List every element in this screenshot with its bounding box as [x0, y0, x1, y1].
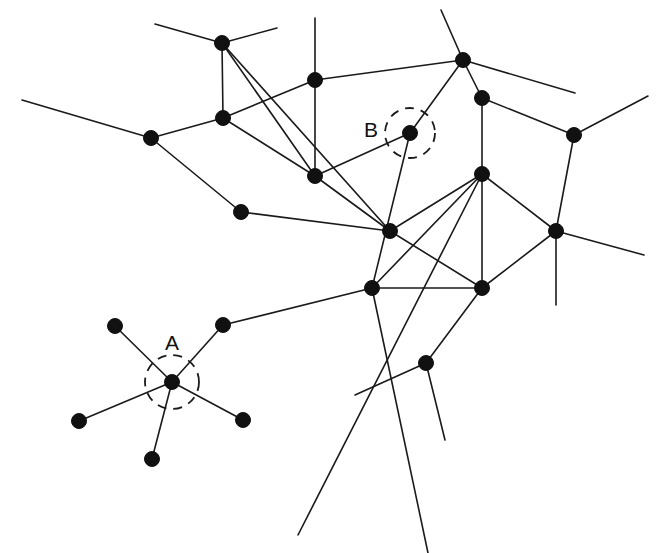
graph-node[interactable]	[216, 111, 231, 126]
graph-edge	[222, 43, 223, 118]
graph-edge	[482, 231, 556, 288]
graph-node[interactable]	[383, 224, 398, 239]
graph-node[interactable]	[72, 414, 87, 429]
graph-edge	[172, 382, 243, 420]
graph-node[interactable]	[108, 319, 123, 334]
graph-edge	[482, 98, 574, 135]
graph-edge	[390, 231, 482, 288]
graph-edge	[223, 80, 315, 118]
graph-edge	[222, 43, 315, 176]
graph-edge	[223, 288, 372, 325]
graph-node[interactable]	[403, 126, 418, 141]
graph-node[interactable]	[308, 169, 323, 184]
graph-open-edge	[463, 60, 575, 93]
graph-edge	[151, 118, 223, 138]
graph-edge	[372, 133, 410, 288]
graph-open-edge	[372, 288, 428, 553]
graph-node[interactable]	[365, 281, 380, 296]
graph-node[interactable]	[215, 36, 230, 51]
graph-node[interactable]	[567, 128, 582, 143]
graph-edge	[115, 326, 172, 382]
graph-open-edge	[355, 363, 426, 395]
region-label-b: B	[364, 118, 378, 141]
graph-edge	[315, 60, 463, 80]
graph-edge	[482, 174, 556, 231]
graph-node[interactable]	[234, 205, 249, 220]
graph-node[interactable]	[144, 131, 159, 146]
graph-edge	[410, 60, 463, 133]
region-labels-layer: AB	[165, 118, 378, 354]
graph-node[interactable]	[308, 73, 323, 88]
open-edges-layer	[22, 10, 648, 553]
graph-edge	[79, 382, 172, 421]
edges-layer	[79, 43, 574, 459]
graph-open-edge	[426, 363, 445, 440]
graph-open-edge	[574, 96, 648, 135]
graph-edge	[151, 138, 241, 212]
graph-node[interactable]	[236, 413, 251, 428]
graph-edge	[223, 118, 315, 176]
graph-edge	[556, 135, 574, 231]
network-diagram-figure: AB	[0, 0, 657, 553]
graph-node[interactable]	[145, 452, 160, 467]
graph-canvas: AB	[0, 0, 657, 553]
graph-open-edge	[222, 28, 277, 43]
graph-node[interactable]	[475, 91, 490, 106]
graph-node[interactable]	[475, 281, 490, 296]
graph-node[interactable]	[216, 318, 231, 333]
graph-open-edge	[22, 100, 151, 138]
graph-node[interactable]	[549, 224, 564, 239]
graph-edge	[426, 288, 482, 363]
graph-node[interactable]	[419, 356, 434, 371]
graph-edge	[152, 382, 172, 459]
region-label-a: A	[165, 331, 179, 354]
graph-open-edge	[155, 24, 222, 43]
nodes-layer	[72, 36, 582, 467]
graph-open-edge	[556, 231, 644, 255]
graph-open-edge	[441, 10, 463, 60]
graph-node[interactable]	[165, 375, 180, 390]
graph-node[interactable]	[456, 53, 471, 68]
graph-node[interactable]	[475, 167, 490, 182]
